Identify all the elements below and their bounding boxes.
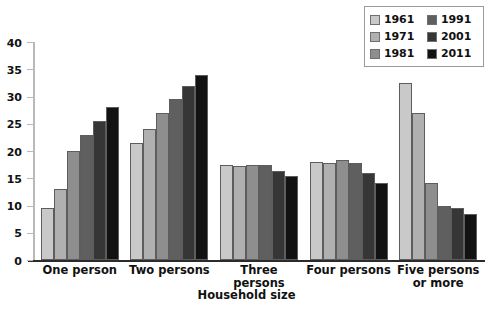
x-tick-label: One person bbox=[35, 264, 125, 277]
y-tick-label: 0 bbox=[14, 254, 22, 267]
x-tick-label: Four persons bbox=[304, 264, 394, 277]
legend-swatch-icon bbox=[370, 15, 380, 25]
x-axis-title: Household size bbox=[0, 288, 493, 302]
legend-label: 2001 bbox=[441, 31, 471, 42]
bar-group-5: Five persons or more bbox=[393, 42, 483, 260]
y-tick: 35 bbox=[27, 69, 33, 70]
bar-1991-5[interactable] bbox=[438, 206, 451, 261]
y-tick: 25 bbox=[27, 124, 33, 125]
bar-2011-2[interactable] bbox=[195, 75, 208, 260]
bar-2001-1[interactable] bbox=[93, 121, 106, 260]
legend-label: 1961 bbox=[384, 14, 414, 25]
y-tick-label: 5 bbox=[14, 227, 22, 240]
bar-2011-1[interactable] bbox=[106, 107, 119, 260]
bar-group-2: Two persons bbox=[125, 42, 215, 260]
y-tick-label: 10 bbox=[7, 200, 22, 213]
bar-1971-4[interactable] bbox=[323, 163, 336, 260]
bar-1971-3[interactable] bbox=[233, 166, 246, 260]
x-tick-label: Three persons bbox=[214, 264, 304, 290]
bar-1961-1[interactable] bbox=[41, 208, 54, 260]
plot-area: 0510152025303540 One personTwo personsTh… bbox=[33, 42, 483, 260]
y-tick-label: 20 bbox=[7, 145, 22, 158]
bar-group-3: Three persons bbox=[214, 42, 304, 260]
bar-1981-5[interactable] bbox=[425, 183, 438, 260]
bar-1961-2[interactable] bbox=[130, 143, 143, 260]
bar-chart: 196119911971200119812011 051015202530354… bbox=[0, 0, 493, 315]
legend-swatch-icon bbox=[427, 32, 437, 42]
y-tick: 5 bbox=[27, 233, 33, 234]
legend-label: 1991 bbox=[441, 14, 471, 25]
bar-1991-3[interactable] bbox=[259, 165, 272, 260]
legend-item-2001[interactable]: 2001 bbox=[427, 31, 478, 42]
bar-2011-4[interactable] bbox=[375, 183, 388, 260]
bar-1991-4[interactable] bbox=[349, 163, 362, 260]
legend-swatch-icon bbox=[427, 15, 437, 25]
bar-1971-2[interactable] bbox=[143, 129, 156, 260]
bar-1971-5[interactable] bbox=[412, 113, 425, 260]
y-tick-label: 35 bbox=[7, 63, 22, 76]
bar-2001-3[interactable] bbox=[272, 171, 285, 260]
bar-1971-1[interactable] bbox=[54, 189, 67, 260]
y-tick: 0 bbox=[27, 260, 33, 261]
x-tick-label: Two persons bbox=[125, 264, 215, 277]
legend-swatch-icon bbox=[370, 32, 380, 42]
bar-groups: One personTwo personsThree personsFour p… bbox=[35, 42, 483, 260]
legend-item-1971[interactable]: 1971 bbox=[370, 31, 421, 42]
bar-1961-5[interactable] bbox=[399, 83, 412, 260]
bar-2001-5[interactable] bbox=[451, 208, 464, 260]
legend-item-1961[interactable]: 1961 bbox=[370, 14, 421, 25]
y-tick: 10 bbox=[27, 206, 33, 207]
bar-1961-4[interactable] bbox=[310, 162, 323, 260]
y-tick: 15 bbox=[27, 178, 33, 179]
bar-1991-1[interactable] bbox=[80, 135, 93, 260]
y-tick-label: 25 bbox=[7, 118, 22, 131]
bar-1991-2[interactable] bbox=[169, 99, 182, 260]
bar-1981-1[interactable] bbox=[67, 151, 80, 260]
y-tick: 40 bbox=[27, 42, 33, 43]
y-tick: 20 bbox=[27, 151, 33, 152]
y-tick-label: 15 bbox=[7, 172, 22, 185]
bar-2001-4[interactable] bbox=[362, 173, 375, 260]
legend-item-1991[interactable]: 1991 bbox=[427, 14, 478, 25]
y-tick-label: 30 bbox=[7, 91, 22, 104]
bar-1961-3[interactable] bbox=[220, 165, 233, 260]
y-tick-label: 40 bbox=[7, 36, 22, 49]
bar-2011-3[interactable] bbox=[285, 176, 298, 260]
legend-label: 1971 bbox=[384, 31, 414, 42]
x-tick-label: Five persons or more bbox=[393, 264, 483, 290]
bar-1981-4[interactable] bbox=[336, 160, 349, 260]
bar-2011-5[interactable] bbox=[464, 214, 477, 260]
bar-group-1: One person bbox=[35, 42, 125, 260]
bar-group-4: Four persons bbox=[304, 42, 394, 260]
x-axis-line bbox=[28, 260, 485, 262]
bar-1981-2[interactable] bbox=[156, 113, 169, 260]
bar-1981-3[interactable] bbox=[246, 165, 259, 260]
bar-2001-2[interactable] bbox=[182, 86, 195, 260]
y-tick: 30 bbox=[27, 97, 33, 98]
